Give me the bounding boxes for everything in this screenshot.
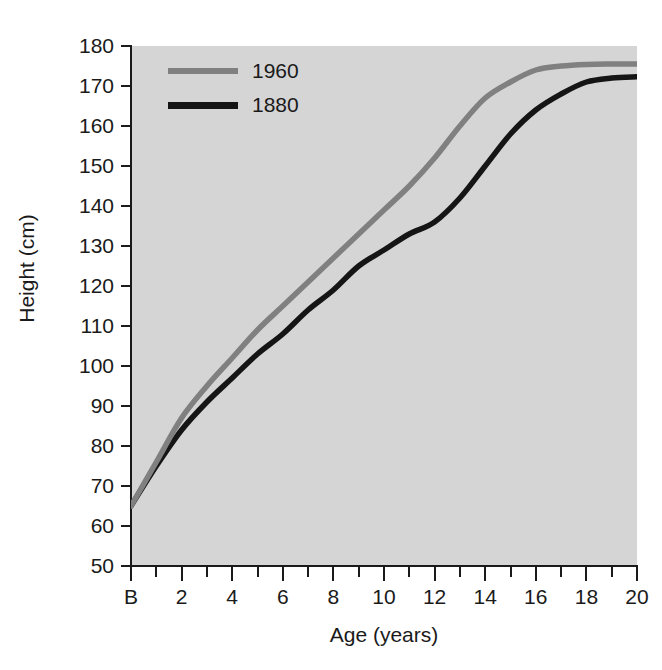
x-axis-tick-label: 10 <box>364 586 404 607</box>
x-axis-minor-tick <box>358 567 360 577</box>
series-line-1960 <box>131 64 637 506</box>
x-axis-tick-label: 18 <box>566 586 606 607</box>
x-axis-minor-tick <box>510 567 512 577</box>
y-axis-tick <box>121 165 130 167</box>
y-axis-tick <box>121 85 130 87</box>
x-axis-minor-tick <box>459 567 461 577</box>
y-axis-tick <box>121 205 130 207</box>
y-axis-tick <box>121 485 130 487</box>
series-line-1880 <box>131 77 637 506</box>
x-axis-tick <box>434 567 436 581</box>
legend-color-swatch <box>168 68 238 74</box>
x-axis-minor-tick <box>560 567 562 577</box>
x-axis-minor-tick <box>307 567 309 577</box>
series-curves <box>131 46 637 566</box>
y-axis-tick-label: 70 <box>52 475 114 496</box>
x-axis-tick-label: 20 <box>617 586 657 607</box>
y-axis-tick <box>121 285 130 287</box>
y-axis-tick <box>121 245 130 247</box>
x-axis-tick <box>383 567 385 581</box>
x-axis-minor-tick <box>155 567 157 577</box>
y-axis-tick-label: 110 <box>52 315 114 336</box>
y-axis-tick-label: 150 <box>52 155 114 176</box>
y-axis-tick <box>121 405 130 407</box>
growth-chart: 5060708090100110120130140150160170180 B2… <box>0 0 662 670</box>
y-axis-title: Height (cm) <box>16 189 37 349</box>
y-axis-tick <box>121 365 130 367</box>
y-axis-tick <box>121 445 130 447</box>
x-axis-tick <box>484 567 486 581</box>
y-axis-tick-label: 130 <box>52 235 114 256</box>
x-axis-minor-tick <box>611 567 613 577</box>
y-axis-tick-label: 60 <box>52 515 114 536</box>
x-axis-tick-label: 6 <box>263 586 303 607</box>
x-axis-tick-label: 4 <box>212 586 252 607</box>
y-axis-tick <box>121 125 130 127</box>
legend-label: 1960 <box>252 56 299 85</box>
y-axis-tick-label: 160 <box>52 115 114 136</box>
y-axis-tick-label: 50 <box>52 555 114 576</box>
y-axis-tick-label: 80 <box>52 435 114 456</box>
x-axis-minor-tick <box>206 567 208 577</box>
x-axis-tick-label: 2 <box>162 586 202 607</box>
x-axis-title: Age (years) <box>131 624 637 645</box>
x-axis-minor-tick <box>257 567 259 577</box>
x-axis-tick-label: 8 <box>313 586 353 607</box>
legend-label: 1880 <box>252 90 299 119</box>
x-axis-tick <box>535 567 537 581</box>
x-axis-tick <box>130 567 132 581</box>
y-axis-tick <box>121 45 130 47</box>
x-axis-tick-label: 12 <box>415 586 455 607</box>
y-axis-tick <box>121 525 130 527</box>
x-axis-tick <box>231 567 233 581</box>
x-axis-tick-label: B <box>111 586 151 607</box>
y-axis-tick-label: 100 <box>52 355 114 376</box>
y-axis-tick <box>121 325 130 327</box>
x-axis-minor-tick <box>408 567 410 577</box>
x-axis-tick <box>282 567 284 581</box>
y-axis-tick-label: 120 <box>52 275 114 296</box>
y-axis-tick-label: 170 <box>52 75 114 96</box>
x-axis-tick <box>636 567 638 581</box>
y-axis-tick-label: 140 <box>52 195 114 216</box>
x-axis-tick-label: 14 <box>465 586 505 607</box>
x-axis-tick <box>181 567 183 581</box>
y-axis-tick-label: 90 <box>52 395 114 416</box>
y-axis-tick <box>121 565 130 567</box>
y-axis-tick-label: 180 <box>52 35 114 56</box>
x-axis-tick-label: 16 <box>516 586 556 607</box>
x-axis-tick <box>332 567 334 581</box>
x-axis-tick <box>585 567 587 581</box>
legend-color-swatch <box>168 102 238 109</box>
